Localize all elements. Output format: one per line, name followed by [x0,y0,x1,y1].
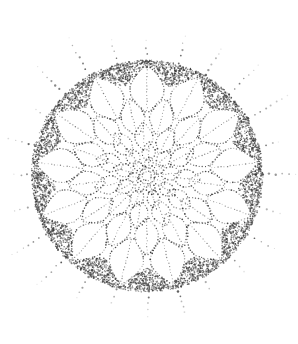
stipple-illustration-canvas [0,0,298,344]
stipple-artwork [0,0,298,344]
